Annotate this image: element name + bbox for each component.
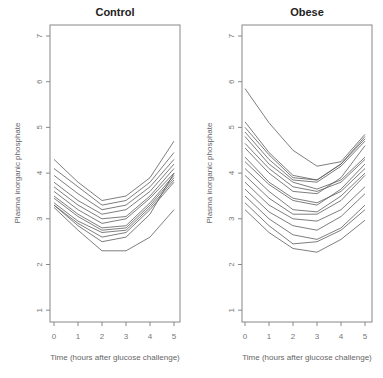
y-axis: 1234567 (227, 33, 242, 312)
y-tick-label: 7 (227, 33, 236, 38)
x-tick-label: 1 (267, 332, 272, 341)
x-tick-label: 0 (52, 332, 57, 341)
x-tick-label: 4 (148, 332, 153, 341)
x-tick-label: 2 (291, 332, 296, 341)
y-axis: 1234567 (35, 33, 50, 312)
plot-frame (50, 25, 180, 322)
y-tick-label: 3 (35, 216, 44, 221)
panel-obese: Obese 1234567 012345 Time (hours after g… (205, 6, 372, 362)
x-tick-label: 4 (339, 332, 344, 341)
series-lines (54, 141, 174, 251)
y-tick-label: 2 (227, 262, 236, 267)
y-tick-label: 4 (35, 170, 44, 175)
y-axis-label: Plasma inorganic phosphate (13, 122, 22, 224)
x-tick-label: 0 (243, 332, 248, 341)
x-tick-label: 3 (315, 332, 320, 341)
x-tick-label: 2 (100, 332, 105, 341)
x-axis: 012345 (52, 322, 177, 341)
x-tick-label: 3 (124, 332, 129, 341)
series-line (245, 89, 365, 167)
series-line (245, 122, 365, 180)
series-line (245, 162, 365, 205)
y-tick-label: 6 (35, 79, 44, 84)
y-tick-label: 7 (35, 33, 44, 38)
series-line (245, 182, 365, 221)
y-axis-label: Plasma inorganic phosphate (205, 122, 214, 224)
y-tick-label: 1 (35, 307, 44, 312)
y-tick-label: 6 (227, 79, 236, 84)
y-tick-label: 4 (227, 170, 236, 175)
x-axis: 012345 (243, 322, 368, 341)
x-tick-label: 1 (76, 332, 81, 341)
x-tick-label: 5 (363, 332, 368, 341)
y-tick-label: 2 (35, 262, 44, 267)
x-axis-label: Time (hours after glucose challenge) (50, 353, 180, 362)
series-line (245, 169, 365, 212)
y-tick-label: 5 (35, 125, 44, 130)
x-axis-label: Time (hours after glucose challenge) (242, 353, 372, 362)
x-tick-label: 5 (172, 332, 177, 341)
series-line (245, 210, 365, 253)
series-line (245, 203, 365, 244)
series-lines (245, 89, 365, 253)
y-tick-label: 5 (227, 125, 236, 130)
series-line (245, 189, 365, 230)
y-tick-label: 3 (227, 216, 236, 221)
chart-figure: Control 1234567 012345 Time (hours after… (0, 0, 383, 378)
panel-title: Obese (290, 6, 324, 18)
series-line (245, 127, 365, 180)
series-line (245, 157, 365, 203)
plot-frame (242, 25, 372, 322)
panel-control: Control 1234567 012345 Time (hours after… (13, 6, 180, 362)
y-tick-label: 1 (227, 307, 236, 312)
panel-title: Control (95, 6, 134, 18)
series-line (54, 153, 174, 206)
